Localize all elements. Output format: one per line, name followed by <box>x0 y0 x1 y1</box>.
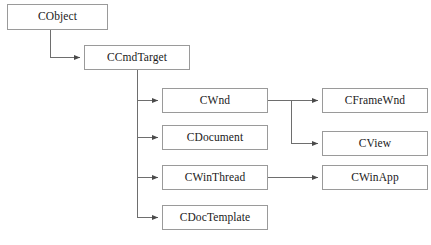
class-node-ccmdtarget[interactable]: CCmdTarget <box>84 45 190 70</box>
class-node-label: CView <box>359 138 391 150</box>
class-node-cobject[interactable]: CObject <box>7 4 108 30</box>
class-node-cframewnd[interactable]: CFrameWnd <box>322 88 428 113</box>
edge-ccmdtarget-cdoctemplate <box>137 101 158 218</box>
edge-cobject-ccmdtarget <box>50 30 80 58</box>
class-node-label: CWnd <box>200 95 230 107</box>
class-node-label: CWinThread <box>185 172 246 184</box>
class-node-label: CDocument <box>187 132 243 144</box>
class-node-label: CDocTemplate <box>180 212 251 224</box>
edge-ccmdtarget-cwnd <box>137 70 158 101</box>
class-hierarchy-diagram: CObject CCmdTarget CWnd CDocument CWinTh… <box>0 0 431 245</box>
class-node-cwinapp[interactable]: CWinApp <box>322 165 428 190</box>
class-node-label: CFrameWnd <box>345 95 405 107</box>
class-node-label: CWinApp <box>351 172 399 184</box>
class-node-label: CObject <box>38 11 77 23</box>
class-node-cdoctemplate[interactable]: CDocTemplate <box>162 205 268 230</box>
class-node-cview[interactable]: CView <box>322 131 428 156</box>
class-node-cdocument[interactable]: CDocument <box>162 125 268 150</box>
class-node-label: CCmdTarget <box>107 52 167 64</box>
edge-cwnd-cview <box>291 101 318 144</box>
class-node-cwnd[interactable]: CWnd <box>162 88 268 113</box>
class-node-cwinthread[interactable]: CWinThread <box>162 165 268 190</box>
